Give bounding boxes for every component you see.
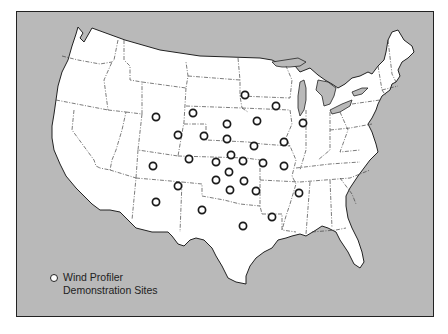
lake-superior [272, 58, 306, 67]
site-marker [241, 91, 248, 98]
site-marker [239, 222, 246, 229]
site-marker [226, 186, 233, 193]
site-marker [212, 158, 219, 165]
site-marker [152, 198, 159, 205]
site-marker [185, 155, 192, 162]
site-marker [152, 113, 159, 120]
site-marker [299, 119, 306, 126]
site-marker [295, 189, 302, 196]
site-marker [174, 182, 181, 189]
site-marker [240, 177, 247, 184]
site-marker [250, 142, 257, 149]
site-marker [280, 138, 287, 145]
site-marker [212, 176, 219, 183]
site-marker [272, 102, 279, 109]
site-marker [174, 131, 181, 138]
site-marker [253, 117, 260, 124]
site-marker [198, 206, 205, 213]
site-marker [252, 187, 259, 194]
legend-label-line2: Demonstration Sites [50, 284, 158, 297]
site-marker [280, 162, 287, 169]
legend: Wind Profiler Demonstration Sites [50, 271, 158, 297]
site-marker [149, 162, 156, 169]
site-marker [239, 157, 246, 164]
site-marker [259, 159, 266, 166]
site-marker [268, 213, 275, 220]
site-marker [227, 151, 234, 158]
site-marker [223, 120, 230, 127]
site-marker [189, 109, 196, 116]
legend-label-line1: Wind Profiler [63, 271, 123, 284]
site-marker [225, 168, 232, 175]
site-marker [200, 132, 207, 139]
site-marker [223, 135, 230, 142]
site-marker-icon [50, 274, 58, 282]
